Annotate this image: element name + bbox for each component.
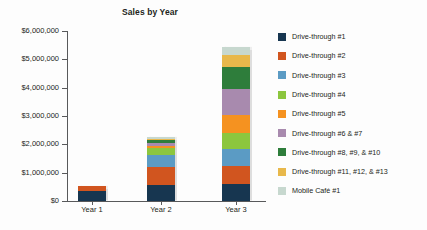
legend-item[interactable]: Drive-through #6 & #7 bbox=[278, 123, 427, 142]
x-axis-label: Year 3 bbox=[206, 205, 266, 214]
legend-item[interactable]: Drive-through #11, #12, & #13 bbox=[278, 162, 427, 181]
y-tick-label: $3,000,000 bbox=[3, 111, 59, 120]
legend-label: Drive-through #6 & #7 bbox=[292, 130, 362, 137]
y-tick bbox=[62, 88, 68, 89]
bar-segment[interactable] bbox=[147, 185, 175, 201]
bar-segment[interactable] bbox=[222, 67, 250, 89]
y-tick bbox=[62, 173, 68, 174]
chart-legend: Drive-through #1Drive-through #2Drive-th… bbox=[272, 0, 427, 230]
x-axis-label: Year 1 bbox=[62, 205, 122, 214]
bar-year-1[interactable] bbox=[78, 186, 106, 201]
legend-label: Drive-through #3 bbox=[292, 72, 346, 79]
legend-swatch-icon bbox=[278, 71, 286, 79]
legend-swatch-icon bbox=[278, 91, 286, 99]
legend-item[interactable]: Drive-through #3 bbox=[278, 66, 427, 85]
bar-segment[interactable] bbox=[222, 184, 250, 201]
y-tick bbox=[62, 59, 68, 60]
legend-label: Drive-through #1 bbox=[292, 33, 346, 40]
bar-segment[interactable] bbox=[78, 191, 106, 201]
legend-item[interactable]: Drive-through #2 bbox=[278, 46, 427, 65]
legend-item[interactable]: Drive-through #1 bbox=[278, 27, 427, 46]
legend-label: Drive-through #4 bbox=[292, 91, 346, 98]
y-tick-label: $2,000,000 bbox=[3, 139, 59, 148]
y-tick-label: $4,000,000 bbox=[3, 83, 59, 92]
legend-label: Drive-through #8, #9, & #10 bbox=[292, 149, 380, 156]
bar-segment[interactable] bbox=[147, 155, 175, 167]
legend-swatch-icon bbox=[278, 187, 286, 195]
plot-area: Sales by Year $0$1,000,000$2,000,000$3,0… bbox=[0, 0, 272, 230]
y-tick-label: $5,000,000 bbox=[3, 54, 59, 63]
bar-segment[interactable] bbox=[222, 55, 250, 66]
bar-segment[interactable] bbox=[147, 148, 175, 156]
bar-segment[interactable] bbox=[222, 47, 250, 55]
legend-item[interactable]: Mobile Café #1 bbox=[278, 181, 427, 200]
x-axis-label: Year 2 bbox=[131, 205, 191, 214]
legend-swatch-icon bbox=[278, 110, 286, 118]
y-tick bbox=[62, 31, 68, 32]
legend-item[interactable]: Drive-through #5 bbox=[278, 104, 427, 123]
legend-swatch-icon bbox=[278, 129, 286, 137]
bar-segment[interactable] bbox=[222, 149, 250, 166]
bar-segment[interactable] bbox=[147, 167, 175, 185]
legend-item[interactable]: Drive-through #8, #9, & #10 bbox=[278, 143, 427, 162]
legend-label: Mobile Café #1 bbox=[292, 187, 340, 194]
y-tick-label: $6,000,000 bbox=[3, 26, 59, 35]
chart-title: Sales by Year bbox=[0, 7, 272, 17]
bar-year-2[interactable] bbox=[147, 137, 175, 201]
legend-swatch-icon bbox=[278, 52, 286, 60]
legend-label: Drive-through #11, #12, & #13 bbox=[292, 168, 388, 175]
bar-segment[interactable] bbox=[222, 166, 250, 184]
legend-label: Drive-through #5 bbox=[292, 110, 346, 117]
y-tick-label: $1,000,000 bbox=[3, 168, 59, 177]
legend-item[interactable]: Drive-through #4 bbox=[278, 85, 427, 104]
y-tick bbox=[62, 201, 68, 202]
bar-segment[interactable] bbox=[222, 133, 250, 149]
bar-year-3[interactable] bbox=[222, 47, 250, 201]
legend-swatch-icon bbox=[278, 168, 286, 176]
bar-segment[interactable] bbox=[222, 115, 250, 133]
y-tick bbox=[62, 144, 68, 145]
legend-label: Drive-through #2 bbox=[292, 52, 346, 59]
legend-swatch-icon bbox=[278, 33, 286, 41]
bar-segment[interactable] bbox=[222, 89, 250, 116]
y-tick-label: $0 bbox=[3, 196, 59, 205]
legend-swatch-icon bbox=[278, 148, 286, 156]
chart-container: Sales by Year $0$1,000,000$2,000,000$3,0… bbox=[0, 0, 427, 230]
y-tick bbox=[62, 116, 68, 117]
